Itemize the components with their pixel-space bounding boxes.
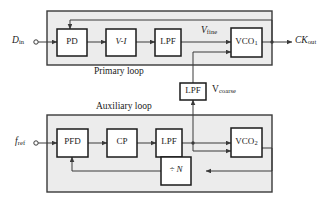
block-label-divider: ÷ N <box>161 164 191 174</box>
block-label-pd: PD <box>57 36 87 46</box>
block-label-lpf-primary: LPF <box>155 36 181 46</box>
block-label-cp: CP <box>107 136 137 146</box>
signal-label-v-coarse: Vcoarse <box>212 84 236 94</box>
port-label-clock-out: CKout <box>295 35 316 45</box>
signal-label-v-fine: Vfine <box>201 25 217 35</box>
diagram-canvas <box>0 0 319 203</box>
block-diagram-figure: Din CKout fref Vfine Vcoarse Primary loo… <box>0 0 319 203</box>
block-label-vi: V-I <box>106 36 136 46</box>
port-label-ref-in: fref <box>15 136 25 146</box>
block-label-vco1: VCO1 <box>231 36 262 46</box>
block-label-lpf-coarse: LPF <box>180 85 206 95</box>
block-label-pfd: PFD <box>57 136 88 146</box>
block-label-lpf-auxiliary: LPF <box>156 136 182 146</box>
block-label-vco2: VCO2 <box>231 136 262 146</box>
primary-loop-label: Primary loop <box>94 66 144 76</box>
auxiliary-loop-label: Auxiliary loop <box>96 101 152 111</box>
port-label-data-in: Din <box>12 35 24 45</box>
